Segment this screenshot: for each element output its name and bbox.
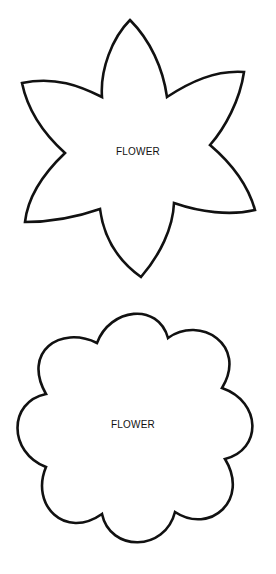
flower-label: FLOWER — [116, 146, 160, 157]
flower-label: FLOWER — [111, 419, 155, 430]
scalloped-flower-outline-icon — [0, 290, 276, 574]
pointed-flower-outline-icon — [0, 0, 276, 290]
scalloped-flower-template: FLOWER — [0, 290, 276, 574]
six-petal-flower-template: FLOWER — [0, 0, 276, 290]
